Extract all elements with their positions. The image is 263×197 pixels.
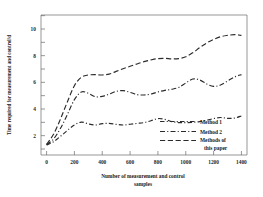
legend-label-methods-of-this-paper-line2: this paper (204, 145, 228, 151)
x-axis-title-line2: samples (134, 181, 152, 187)
chart-figure: 0200400600800100012001400 246810 Number … (0, 0, 263, 197)
x-tick-label: 400 (98, 159, 106, 165)
line-chart: 0200400600800100012001400 246810 Number … (0, 0, 263, 197)
legend-label-method-2: Method 2 (200, 129, 222, 135)
y-axis-title: Time required for measurement and contro… (6, 35, 12, 135)
x-tick-label: 1200 (208, 159, 219, 165)
x-axis-tick-labels: 0200400600800100012001400 (45, 159, 247, 165)
legend-label-methods-of-this-paper-line1: Methods of (200, 137, 226, 143)
y-tick-label: 4 (33, 106, 36, 112)
x-tick-label: 0 (45, 159, 48, 165)
y-tick-label: 8 (33, 53, 36, 59)
y-axis-ticks (41, 16, 45, 149)
x-tick-label: 1400 (236, 159, 247, 165)
legend-label-method-1: Method 1 (200, 119, 222, 125)
x-axis-ticks (47, 151, 242, 155)
x-tick-label: 1000 (180, 159, 191, 165)
y-tick-label: 10 (31, 26, 37, 32)
y-tick-label: 6 (33, 79, 36, 85)
y-tick-label: 2 (33, 133, 36, 139)
y-axis-tick-labels: 246810 (31, 26, 37, 139)
x-axis-title-line1: Number of measurement and control (101, 173, 185, 179)
x-tick-label: 200 (70, 159, 78, 165)
legend: Method 1 Method 2 Methods of this paper (160, 119, 228, 151)
x-tick-label: 800 (154, 159, 162, 165)
x-tick-label: 600 (126, 159, 134, 165)
